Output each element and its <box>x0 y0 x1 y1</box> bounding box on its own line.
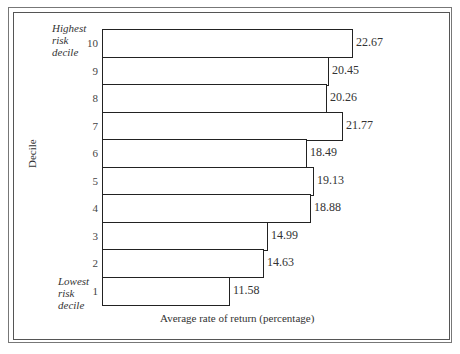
lowest-risk-annotation: Lowest risk decile <box>58 275 89 311</box>
value-label: 20.26 <box>330 91 357 103</box>
value-label: 21.77 <box>346 119 373 131</box>
bar-decile-7 <box>102 112 343 141</box>
value-label: 20.45 <box>332 64 359 76</box>
bar-decile-8 <box>102 84 327 113</box>
bar-decile-9 <box>102 57 329 86</box>
y-tick-label: 6 <box>84 147 98 159</box>
annotation-line: Lowest <box>58 275 89 287</box>
bar-decile-4 <box>102 194 311 223</box>
annotation-line: decile <box>52 46 86 58</box>
annotation-line: risk <box>52 34 86 46</box>
y-tick-label: 4 <box>84 202 98 214</box>
y-tick-label: 2 <box>84 257 98 269</box>
value-label: 18.88 <box>314 201 341 213</box>
bar-decile-3 <box>102 222 268 251</box>
annotation-line: decile <box>58 299 89 311</box>
y-tick-label: 8 <box>84 92 98 104</box>
y-tick-label: 7 <box>84 120 98 132</box>
bar-decile-1 <box>102 277 230 306</box>
value-label: 19.13 <box>317 174 344 186</box>
annotation-line: Highest <box>52 22 86 34</box>
value-label: 22.67 <box>356 36 383 48</box>
value-label: 18.49 <box>310 146 337 158</box>
y-tick-label: 9 <box>84 65 98 77</box>
bar-decile-5 <box>102 167 314 196</box>
highest-risk-annotation: Highest risk decile <box>52 22 86 58</box>
bar-decile-6 <box>102 139 307 168</box>
value-label: 11.58 <box>233 284 260 296</box>
value-label: 14.63 <box>267 256 294 268</box>
bar-decile-10 <box>102 29 353 58</box>
bar-decile-2 <box>102 249 264 278</box>
y-axis-label: Decile <box>26 139 38 168</box>
y-tick-label: 5 <box>84 175 98 187</box>
y-tick-label: 3 <box>84 230 98 242</box>
x-axis-label: Average rate of return (percentage) <box>160 312 314 324</box>
value-label: 14.99 <box>271 229 298 241</box>
annotation-line: risk <box>58 287 89 299</box>
